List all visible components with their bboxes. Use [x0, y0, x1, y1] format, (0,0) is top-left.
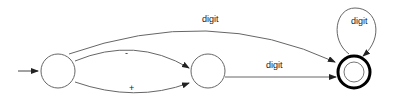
state-final-outer: [338, 56, 370, 88]
label-plus: +: [129, 84, 134, 93]
fsa-diagram: digit - + digit digit: [0, 0, 400, 101]
state-intermediate: [191, 54, 225, 88]
edge-s0-s2-digit: [69, 31, 335, 62]
label-middle-edge: digit: [266, 61, 283, 70]
edge-s0-s1-minus: [75, 50, 189, 68]
state-start: [41, 54, 75, 88]
diagram-graphics: [0, 0, 400, 101]
label-top-arc: digit: [202, 15, 219, 24]
state-final-inner: [344, 62, 364, 82]
label-self-loop: digit: [351, 17, 368, 26]
label-minus: -: [125, 49, 128, 58]
